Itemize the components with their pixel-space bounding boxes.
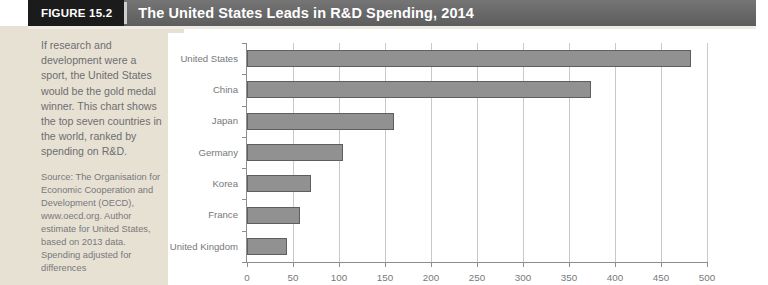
x-tick-200 bbox=[431, 262, 432, 267]
category-label: United Kingdom bbox=[170, 242, 238, 252]
category-label: Japan bbox=[212, 116, 238, 126]
bar-china bbox=[247, 81, 591, 98]
x-tick-label: 300 bbox=[515, 272, 531, 283]
bar-row: Korea bbox=[247, 168, 707, 199]
figure-header-bar: FIGURE 15.2 The United States Leads in R… bbox=[28, 0, 756, 26]
bar-france bbox=[247, 207, 300, 224]
x-tick-label: 400 bbox=[607, 272, 623, 283]
gridline-500 bbox=[707, 43, 708, 262]
caption-column: If research and development were a sport… bbox=[41, 38, 165, 275]
x-tick-label: 450 bbox=[653, 272, 669, 283]
x-tick-100 bbox=[339, 262, 340, 267]
category-label: Korea bbox=[212, 179, 238, 189]
bar-korea bbox=[247, 175, 311, 192]
category-label: China bbox=[213, 85, 238, 95]
bar-row: Germany bbox=[247, 137, 707, 168]
x-tick-label: 150 bbox=[377, 272, 393, 283]
y-tick bbox=[242, 199, 247, 200]
y-tick bbox=[242, 137, 247, 138]
category-label: United States bbox=[180, 54, 238, 64]
x-tick-label: 250 bbox=[469, 272, 485, 283]
caption-source-text: Source: The Organisation for Economic Co… bbox=[41, 171, 165, 276]
y-tick bbox=[242, 74, 247, 75]
x-tick-label: 500 bbox=[699, 272, 715, 283]
x-tick-300 bbox=[523, 262, 524, 267]
x-tick-0 bbox=[247, 262, 248, 267]
x-tick-label: 100 bbox=[331, 272, 347, 283]
x-tick-label: 50 bbox=[288, 272, 299, 283]
bar-row: United Kingdom bbox=[247, 231, 707, 262]
plot-area: 050100150200250300350400450500United Sta… bbox=[246, 43, 707, 262]
bar-germany bbox=[247, 144, 343, 161]
figure-root: FIGURE 15.2 The United States Leads in R… bbox=[0, 0, 768, 285]
x-tick-label: 0 bbox=[244, 272, 249, 283]
bar-row: United States bbox=[247, 43, 707, 74]
x-tick-450 bbox=[661, 262, 662, 267]
bar-row: China bbox=[247, 74, 707, 105]
x-tick-500 bbox=[707, 262, 708, 267]
x-tick-150 bbox=[385, 262, 386, 267]
chart-panel: 050100150200250300350400450500United Sta… bbox=[168, 33, 738, 285]
bar-row: Japan bbox=[247, 106, 707, 137]
figure-number-tag: FIGURE 15.2 bbox=[28, 0, 124, 26]
y-tick bbox=[242, 262, 247, 263]
x-tick-400 bbox=[615, 262, 616, 267]
y-tick bbox=[242, 43, 247, 44]
y-tick bbox=[242, 106, 247, 107]
category-label: Germany bbox=[199, 148, 238, 158]
x-tick-50 bbox=[293, 262, 294, 267]
x-tick-250 bbox=[477, 262, 478, 267]
x-tick-label: 350 bbox=[561, 272, 577, 283]
y-tick bbox=[242, 168, 247, 169]
x-tick-350 bbox=[569, 262, 570, 267]
header-underline bbox=[28, 26, 756, 29]
bar-united-kingdom bbox=[247, 238, 287, 255]
bar-united-states bbox=[247, 50, 691, 67]
bar-row: France bbox=[247, 199, 707, 230]
category-label: France bbox=[208, 210, 238, 220]
caption-text: If research and development were a sport… bbox=[41, 38, 165, 160]
bar-japan bbox=[247, 113, 394, 130]
x-tick-label: 200 bbox=[423, 272, 439, 283]
figure-title: The United States Leads in R&D Spending,… bbox=[127, 0, 474, 26]
y-tick bbox=[242, 231, 247, 232]
